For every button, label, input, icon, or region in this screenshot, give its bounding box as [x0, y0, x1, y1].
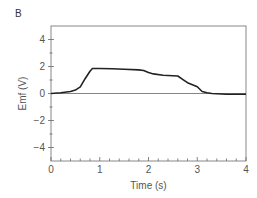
y-tick-label: −2 — [34, 115, 46, 126]
emf-curve — [51, 69, 246, 95]
y-tick-label: 2 — [39, 61, 45, 72]
y-tick-label: 4 — [39, 34, 45, 45]
emf-line-chart: 01234−4−2024 Time (s) Emf (V) — [0, 0, 257, 198]
plot-axes: 01234−4−2024 — [34, 26, 250, 175]
y-tick-label: −4 — [34, 142, 46, 153]
y-axis-label: Emf (V) — [17, 77, 28, 111]
x-tick-label: 3 — [194, 164, 200, 175]
x-tick-label: 4 — [243, 164, 249, 175]
x-axis-label: Time (s) — [130, 180, 166, 191]
x-tick-label: 0 — [48, 164, 54, 175]
y-tick-label: 0 — [39, 88, 45, 99]
x-tick-label: 1 — [97, 164, 103, 175]
x-tick-label: 2 — [146, 164, 152, 175]
data-series — [51, 69, 246, 95]
